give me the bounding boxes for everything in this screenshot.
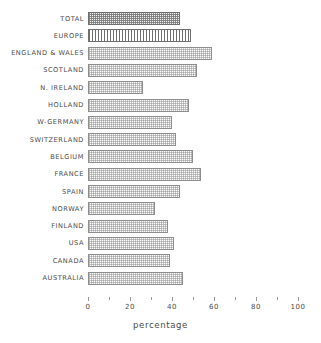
- x-tick-label: 100: [291, 303, 306, 311]
- x-axis-title: percentage: [0, 320, 321, 330]
- bar: [88, 12, 180, 25]
- x-minor-tick: [109, 297, 110, 300]
- bar-row: EUROPE: [88, 29, 298, 42]
- bar-row: BELGIUM: [88, 150, 298, 163]
- bar-category-label: ENGLAND & WALES: [11, 50, 84, 57]
- bar-category-label: AUSTRALIA: [43, 275, 84, 282]
- bar-category-label: SCOTLAND: [43, 67, 84, 74]
- bar-category-label: EUROPE: [54, 33, 84, 40]
- bar-row: FINLAND: [88, 220, 298, 233]
- bar-category-label: N. IRELAND: [40, 84, 84, 91]
- x-tick-label: 20: [125, 303, 135, 311]
- x-minor-tick: [193, 297, 194, 300]
- bar-row: SWITZERLAND: [88, 133, 298, 146]
- bar: [88, 237, 174, 250]
- bar-chart: TOTALEUROPEENGLAND & WALESSCOTLANDN. IRE…: [0, 0, 321, 343]
- bar-category-label: SWITZERLAND: [30, 136, 84, 143]
- bar: [88, 202, 155, 215]
- bar: [88, 150, 193, 163]
- bar: [88, 116, 172, 129]
- bar-row: FRANCE: [88, 168, 298, 181]
- bar: [88, 29, 191, 42]
- bar: [88, 220, 168, 233]
- x-tick: [172, 297, 173, 301]
- x-minor-tick: [235, 297, 236, 300]
- bar-row: AUSTRALIA: [88, 272, 298, 285]
- x-tick: [256, 297, 257, 301]
- bar-category-label: USA: [69, 240, 84, 247]
- bar: [88, 133, 176, 146]
- x-tick: [130, 297, 131, 301]
- bar-category-label: FINLAND: [51, 223, 84, 230]
- bar-category-label: BELGIUM: [50, 154, 84, 161]
- x-tick-label: 40: [167, 303, 177, 311]
- bar-category-label: W-GERMANY: [37, 119, 84, 126]
- bar-category-label: CANADA: [53, 257, 84, 264]
- bar-row: SPAIN: [88, 185, 298, 198]
- bar-category-label: TOTAL: [60, 15, 84, 22]
- bar-category-label: FRANCE: [54, 171, 84, 178]
- plot-area: TOTALEUROPEENGLAND & WALESSCOTLANDN. IRE…: [88, 12, 298, 297]
- bar: [88, 99, 189, 112]
- x-tick-label: 60: [209, 303, 219, 311]
- bar: [88, 185, 180, 198]
- bar: [88, 168, 201, 181]
- x-tick-label: 80: [251, 303, 261, 311]
- x-minor-tick: [277, 297, 278, 300]
- bar: [88, 64, 197, 77]
- bar: [88, 47, 212, 60]
- x-tick: [88, 297, 89, 301]
- bar: [88, 254, 170, 267]
- x-axis: 020406080100: [88, 297, 298, 298]
- x-minor-tick: [151, 297, 152, 300]
- bar-row: NORWAY: [88, 202, 298, 215]
- bar-category-label: SPAIN: [62, 188, 84, 195]
- bar-row: HOLLAND: [88, 99, 298, 112]
- bar-category-label: HOLLAND: [48, 102, 84, 109]
- bar: [88, 81, 143, 94]
- bar-category-label: NORWAY: [52, 206, 84, 213]
- bar-row: W-GERMANY: [88, 116, 298, 129]
- bar-row: SCOTLAND: [88, 64, 298, 77]
- bar: [88, 272, 183, 285]
- bar-row: TOTAL: [88, 12, 298, 25]
- x-tick-label: 0: [86, 303, 91, 311]
- bar-row: ENGLAND & WALES: [88, 47, 298, 60]
- x-tick: [214, 297, 215, 301]
- bar-row: N. IRELAND: [88, 81, 298, 94]
- x-tick: [298, 297, 299, 301]
- bar-row: USA: [88, 237, 298, 250]
- bar-row: CANADA: [88, 254, 298, 267]
